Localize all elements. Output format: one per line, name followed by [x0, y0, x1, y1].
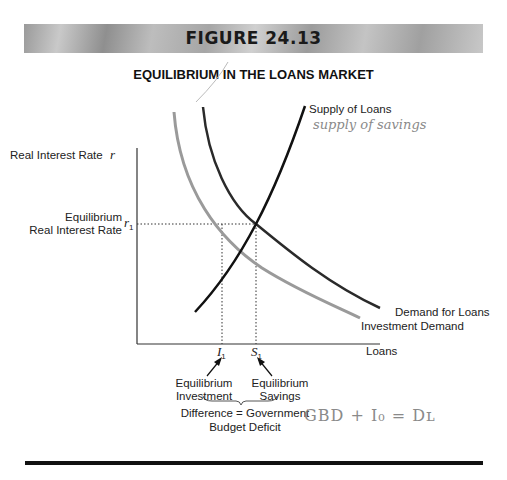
supply-curve-label: Supply of Loans: [309, 103, 391, 115]
pen-stroke: [196, 62, 228, 102]
difference-line2: Budget Deficit: [170, 420, 320, 434]
i1-marker: I1: [217, 344, 226, 361]
s1-subscript: 1: [258, 352, 262, 361]
demand-for-loans-curve: [203, 107, 380, 308]
supply-handwritten-note: supply of savings: [313, 117, 426, 132]
budget-deficit-label: Difference = Government Budget Deficit: [170, 406, 320, 434]
equilibrium-rate-label: Equilibrium Real Interest Rate: [20, 211, 122, 237]
r1-subscript: 1: [129, 223, 133, 232]
investment-label-line1: Equilibrium: [168, 377, 240, 390]
savings-label-line2: Savings: [244, 390, 316, 403]
r1-marker: r1: [124, 215, 134, 232]
investment-curve-label: Investment Demand: [361, 320, 464, 332]
y-axis-label: Real Interest Rate r: [10, 147, 115, 163]
y-axis-label-text: Real Interest Rate: [10, 149, 103, 161]
supply-of-loans-curve: [195, 106, 305, 312]
equilibrium-rate-line2: Real Interest Rate: [20, 224, 122, 237]
handwritten-equation: GBD + I₀ = Dʟ: [304, 406, 436, 425]
x-axis-label: Loans: [366, 345, 397, 357]
investment-label-line2: Investment: [168, 390, 240, 403]
y-axis-symbol: r: [110, 147, 115, 162]
footer-rule: [25, 461, 483, 465]
equilibrium-investment-label: Equilibrium Investment: [168, 377, 240, 403]
i1-subscript: 1: [221, 352, 225, 361]
s1-marker: S1: [251, 344, 262, 361]
equilibrium-savings-label: Equilibrium Savings: [244, 377, 316, 403]
demand-curve-label: Demand for Loans: [395, 306, 490, 318]
difference-line1: Difference = Government: [170, 406, 320, 420]
investment-demand-curve: [174, 112, 360, 318]
savings-label-line1: Equilibrium: [244, 377, 316, 390]
equilibrium-rate-line1: Equilibrium: [20, 211, 122, 224]
